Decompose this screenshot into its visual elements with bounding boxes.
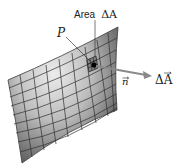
point-p-dot bbox=[91, 62, 96, 67]
surface-area-element-diagram: Area ΔA P n ΔA bbox=[0, 0, 187, 166]
point-label: P bbox=[56, 26, 66, 40]
vector-label: ΔA bbox=[155, 73, 173, 87]
area-label: Area ΔA bbox=[74, 4, 118, 21]
normal-label: n bbox=[122, 76, 128, 87]
